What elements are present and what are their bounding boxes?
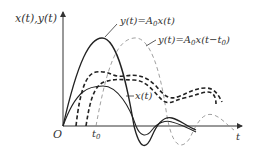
t0-subscript: 0 — [96, 133, 101, 141]
diagram-canvas: x(t),y(t) t O t0 y(t)=A0x(t) y(t)=A0x(t−… — [0, 0, 256, 153]
delayed-output-label: y(t)=A0x(t−t0) — [157, 34, 230, 47]
x-axis-label: t — [236, 131, 241, 142]
input-signal-curve — [63, 86, 196, 135]
y-axis-label: x(t),y(t) — [15, 12, 57, 25]
del-label-part2: x(t−t — [196, 34, 223, 45]
leader-delayed — [146, 40, 156, 46]
t0-label: t0 — [92, 128, 101, 141]
input-signal-label: x(t) — [135, 90, 153, 101]
origin-label: O — [53, 128, 62, 141]
del-label-end: ) — [225, 34, 230, 45]
amplified-output-label: y(t)=A0x(t) — [119, 15, 175, 28]
leader-amplified — [105, 24, 117, 37]
amp-label-part2: x(t) — [158, 15, 176, 26]
amp-label-part1: y(t)=A — [119, 15, 153, 26]
del-label-part1: y(t)=A — [157, 34, 191, 45]
